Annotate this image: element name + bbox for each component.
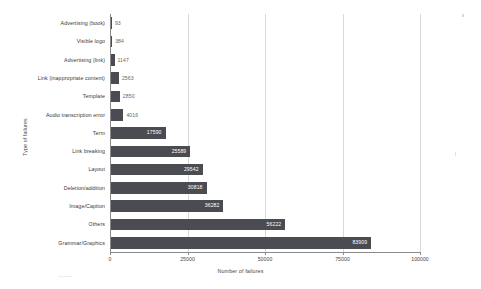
- x-axis-title: Number of failures: [0, 268, 481, 274]
- bar-chart-figure: Type of failures Advertising (book)93Vis…: [0, 0, 481, 289]
- category-label: Others: [89, 215, 106, 233]
- category-label: Advertising (book): [61, 14, 106, 32]
- bar-row: Layout29542: [110, 160, 420, 178]
- bar-row: Term17590: [110, 124, 420, 142]
- bar-row: Advertising (link)1147: [110, 51, 420, 69]
- bar-value-label: 83909: [352, 237, 367, 249]
- x-tick: [343, 252, 344, 255]
- bar: [111, 219, 285, 231]
- category-label: Advertising (link): [64, 51, 105, 69]
- scan-speck: [58, 276, 72, 277]
- x-tick: [265, 252, 266, 255]
- bar-row: Visible logo384: [110, 32, 420, 50]
- category-label: Template: [83, 87, 105, 105]
- bar-value-label: 30818: [188, 182, 203, 194]
- x-tick-label: 75000: [335, 256, 350, 262]
- x-tick-label: 25000: [180, 256, 195, 262]
- bar-value-label: 1147: [118, 51, 129, 69]
- bar: [111, 54, 115, 66]
- category-label: Layout: [88, 160, 105, 178]
- bar-value-label: 93: [115, 14, 121, 32]
- bar: [111, 36, 112, 48]
- x-tick-label: 100000: [411, 256, 429, 262]
- bar-value-label: 56222: [267, 219, 282, 231]
- bar-row: Grammar/Graphics83909: [110, 234, 420, 252]
- category-label: Term: [93, 124, 105, 142]
- bar-row: Deletion/addition30818: [110, 179, 420, 197]
- bar-row: Link breaking25589: [110, 142, 420, 160]
- category-label: Visible logo: [77, 32, 105, 50]
- category-label: Image/Caption: [69, 197, 105, 215]
- bar: [111, 91, 120, 103]
- bar-value-label: 17590: [147, 127, 162, 139]
- scan-speck: [455, 152, 456, 156]
- category-label: Grammar/Graphics: [58, 234, 105, 252]
- gridline: [420, 14, 421, 252]
- bar-row: Audio transcription error4016: [110, 106, 420, 124]
- category-label: Link (inappropriate content): [38, 69, 105, 87]
- category-label: Audio transcription error: [46, 106, 105, 124]
- x-tick: [188, 252, 189, 255]
- bar-row: Image/Caption36282: [110, 197, 420, 215]
- bar-value-label: 4016: [126, 106, 138, 124]
- bar-value-label: 29542: [184, 164, 199, 176]
- category-label: Link breaking: [72, 142, 105, 160]
- scan-speck: [462, 14, 464, 17]
- category-label: Deletion/addition: [64, 179, 105, 197]
- x-tick: [110, 252, 111, 255]
- bar-row: Template2850: [110, 87, 420, 105]
- y-axis-title: Type of failures: [18, 92, 32, 182]
- x-tick: [420, 252, 421, 255]
- bar: [111, 72, 119, 84]
- bar-value-label: 384: [115, 32, 124, 50]
- bar: [111, 237, 371, 249]
- bar-value-label: 36282: [205, 200, 220, 212]
- bar-row: Advertising (book)93: [110, 14, 420, 32]
- x-tick-label: 0: [109, 256, 112, 262]
- bar: [111, 17, 112, 29]
- x-tick-label: 50000: [258, 256, 273, 262]
- plot-area: Advertising (book)93Visible logo384Adver…: [110, 14, 420, 252]
- bar: [111, 109, 123, 121]
- bar-value-label: 2563: [122, 69, 134, 87]
- bar-row: Others56222: [110, 215, 420, 233]
- bar-value-label: 2850: [123, 87, 135, 105]
- bar-value-label: 25589: [172, 146, 187, 158]
- bar-row: Link (inappropriate content)2563: [110, 69, 420, 87]
